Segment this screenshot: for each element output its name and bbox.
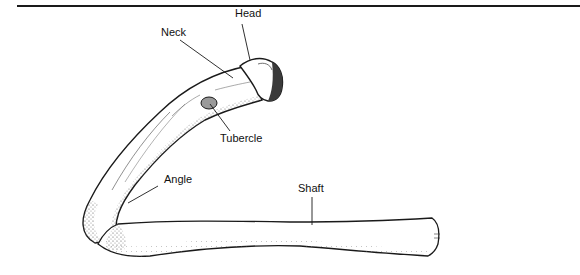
label-neck: Neck xyxy=(161,27,186,38)
neck-leader-line xyxy=(180,40,233,78)
rib-illustration xyxy=(0,0,580,275)
rib-upper-segment xyxy=(83,66,262,243)
label-angle: Angle xyxy=(164,174,192,185)
label-tubercle: Tubercle xyxy=(220,133,262,144)
rib-shaft xyxy=(98,218,440,256)
label-head: Head xyxy=(235,8,261,19)
head-leader-line xyxy=(242,24,250,60)
rib-tubercle xyxy=(201,97,217,109)
label-shaft: Shaft xyxy=(298,183,324,194)
